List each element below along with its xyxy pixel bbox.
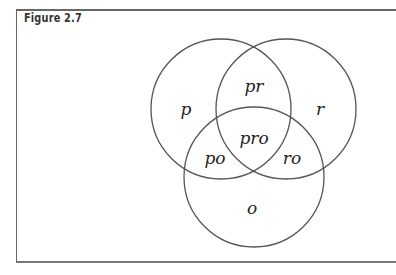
region-label-o: o [247,198,257,218]
region-label-po: po [204,148,225,168]
region-label-pro: pro [239,128,268,148]
region-label-ro: ro [283,148,301,168]
region-label-pr: pr [244,76,264,96]
region-label-p: p [181,99,192,119]
region-label-r: r [316,99,325,119]
